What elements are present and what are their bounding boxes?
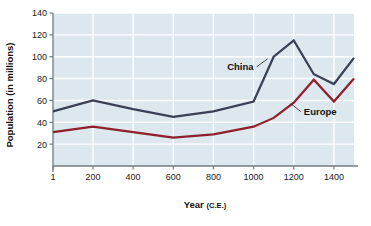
- x-axis-ticks: 1200400600800100012001400: [50, 166, 343, 182]
- y-axis-title: Population (in millions): [4, 42, 15, 147]
- y-tick-label: 80: [37, 74, 47, 84]
- y-tick-label: 140: [32, 8, 47, 18]
- x-tick-label: 600: [166, 172, 181, 182]
- chart-canvas: 20406080100120140 1200400600800100012001…: [0, 0, 371, 226]
- population-line-chart-figure: 20406080100120140 1200400600800100012001…: [0, 0, 371, 226]
- x-tick-label: 1200: [284, 172, 304, 182]
- y-axis-ticks: 20406080100120140: [32, 8, 53, 149]
- plot-background: [53, 13, 354, 166]
- x-tick-label: 1000: [244, 172, 264, 182]
- y-tick-label: 60: [37, 96, 47, 106]
- x-tick-label: 200: [85, 172, 100, 182]
- y-tick-label: 20: [37, 140, 47, 150]
- y-tick-label: 120: [32, 30, 47, 40]
- x-tick-label: 800: [206, 172, 221, 182]
- x-tick-label: 400: [126, 172, 141, 182]
- x-tick-label: 1: [50, 172, 55, 182]
- y-tick-label: 100: [32, 52, 47, 62]
- series-label-china: China: [227, 61, 254, 72]
- y-tick-label: 40: [37, 118, 47, 128]
- x-axis-title-suffix: (C.E.): [206, 201, 226, 210]
- series-label-europe: Europe: [304, 106, 337, 117]
- x-tick-label: 1400: [324, 172, 344, 182]
- x-axis-title-main: Year: [184, 199, 207, 210]
- x-axis-title: Year (C.E.): [184, 199, 227, 210]
